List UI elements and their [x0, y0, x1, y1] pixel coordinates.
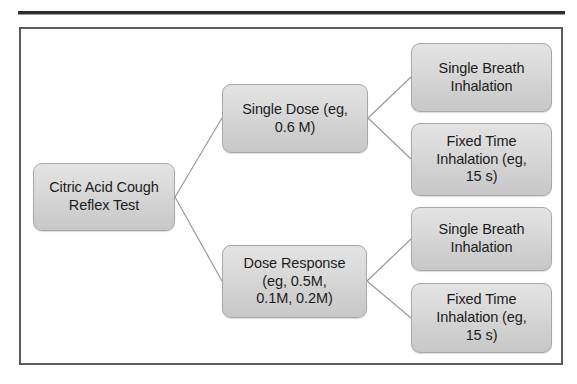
- node-label: Dose Response (eg, 0.5M, 0.1M, 0.2M): [244, 255, 346, 308]
- node-label: Fixed Time Inhalation (eg, 15 s): [436, 291, 526, 344]
- node-dose-response[interactable]: Dose Response (eg, 0.5M, 0.1M, 0.2M): [222, 245, 367, 318]
- figure-canvas: Citric Acid Cough Reflex Test Single Dos…: [0, 0, 577, 384]
- node-citric-acid-cough-reflex-test[interactable]: Citric Acid Cough Reflex Test: [33, 163, 175, 231]
- node-label: Single Breath Inhalation: [439, 60, 525, 95]
- node-single-breath-inhalation-top[interactable]: Single Breath Inhalation: [411, 43, 552, 112]
- top-horizontal-rule: [18, 11, 565, 15]
- node-single-dose[interactable]: Single Dose (eg, 0.6 M): [222, 84, 368, 153]
- node-label: Fixed Time Inhalation (eg, 15 s): [436, 133, 526, 186]
- node-label: Single Dose (eg, 0.6 M): [242, 101, 348, 136]
- node-label: Single Breath Inhalation: [439, 221, 525, 256]
- node-fixed-time-inhalation-bottom[interactable]: Fixed Time Inhalation (eg, 15 s): [411, 283, 552, 353]
- node-single-breath-inhalation-bottom[interactable]: Single Breath Inhalation: [411, 207, 552, 271]
- node-fixed-time-inhalation-top[interactable]: Fixed Time Inhalation (eg, 15 s): [411, 123, 552, 196]
- node-label: Citric Acid Cough Reflex Test: [49, 179, 159, 214]
